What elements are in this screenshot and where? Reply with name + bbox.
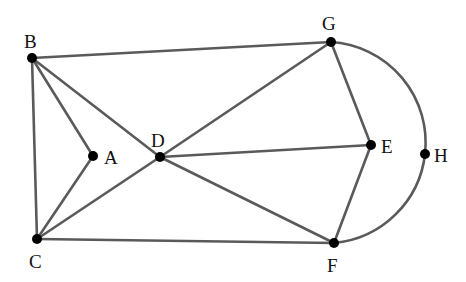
node-c (32, 234, 42, 244)
edge-b-a (32, 58, 93, 156)
edge-c-f (37, 239, 334, 243)
node-label-h: H (434, 145, 448, 166)
edge-d-e (160, 145, 371, 157)
node-g (326, 37, 336, 47)
node-e (366, 140, 376, 150)
node-label-e: E (381, 136, 393, 157)
edges-group (32, 42, 371, 243)
node-label-c: C (29, 251, 42, 272)
node-label-d: D (151, 130, 165, 151)
edge-e-f (334, 145, 371, 243)
node-label-g: G (322, 13, 336, 34)
node-h (420, 149, 430, 159)
nodes-group (27, 37, 430, 248)
node-b (27, 53, 37, 63)
graph-diagram: ABCDEFGH (0, 0, 466, 282)
edge-a-c (37, 156, 93, 239)
node-label-f: F (327, 255, 338, 276)
edge-b-d (32, 58, 160, 157)
node-d (155, 152, 165, 162)
edge-d-g (160, 42, 331, 157)
edge-b-g (32, 42, 331, 58)
edge-g-e (331, 42, 371, 145)
node-a (88, 151, 98, 161)
labels-group: ABCDEFGH (24, 13, 448, 276)
edge-c-d (37, 157, 160, 239)
node-f (329, 238, 339, 248)
edge-d-f (160, 157, 334, 243)
node-label-b: B (24, 31, 37, 52)
node-label-a: A (104, 147, 118, 168)
edge-b-c (32, 58, 37, 239)
